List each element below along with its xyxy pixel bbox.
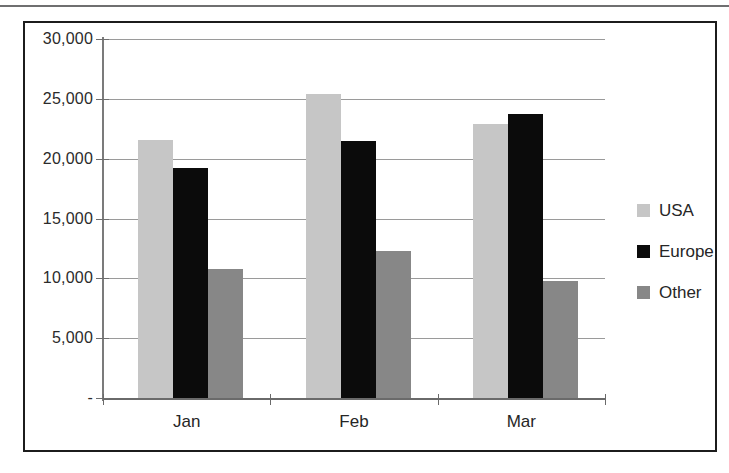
x-axis-tick-label-jan: Jan <box>173 412 200 432</box>
bar-other-mar[interactable] <box>543 281 578 398</box>
chart-frame: -5,00010,00015,00020,00025,00030,000 USA… <box>23 21 717 452</box>
legend-swatch-icon <box>637 286 650 299</box>
page-top-rule <box>0 5 729 7</box>
y-axis-tick-label: 30,000 <box>19 30 93 48</box>
x-axis-tick <box>270 394 271 405</box>
bar-group <box>306 39 411 398</box>
legend-label: Europe <box>659 242 714 262</box>
bar-europe-mar[interactable] <box>508 114 543 398</box>
y-axis-tick-label: 25,000 <box>19 90 93 108</box>
x-axis-tick <box>438 394 439 405</box>
y-axis-tick <box>96 159 109 160</box>
bar-usa-jan[interactable] <box>138 140 173 398</box>
y-axis-tick-label: 15,000 <box>19 210 93 228</box>
legend-item-other[interactable]: Other <box>637 272 729 313</box>
legend-label: Other <box>659 283 702 303</box>
x-axis-tick-label-mar: Mar <box>507 412 536 432</box>
bar-group <box>138 39 243 398</box>
legend-swatch-icon <box>637 204 650 217</box>
bar-usa-mar[interactable] <box>473 124 508 398</box>
bar-europe-jan[interactable] <box>173 168 208 398</box>
bar-usa-feb[interactable] <box>306 94 341 398</box>
y-axis-tick-label: - <box>19 389 93 407</box>
y-axis-tick-labels: -5,00010,00015,00020,00025,00030,000 <box>25 39 93 398</box>
legend-item-usa[interactable]: USA <box>637 190 729 231</box>
legend-label: USA <box>659 201 694 221</box>
y-axis-tick <box>96 278 109 279</box>
bar-other-feb[interactable] <box>376 251 411 398</box>
y-axis-tick <box>96 39 109 40</box>
legend-item-europe[interactable]: Europe <box>637 231 729 272</box>
x-axis-tick <box>103 394 104 405</box>
y-axis-tick-label: 5,000 <box>19 329 93 347</box>
bar-group <box>473 39 578 398</box>
x-axis-tick-label-feb: Feb <box>339 412 368 432</box>
category-axis-line <box>103 398 606 400</box>
y-axis-tick <box>96 219 109 220</box>
bar-other-jan[interactable] <box>208 269 243 398</box>
x-axis-tick <box>605 394 606 405</box>
y-axis-tick-label: 20,000 <box>19 150 93 168</box>
bar-europe-feb[interactable] <box>341 141 376 398</box>
y-axis-tick <box>96 99 109 100</box>
legend-swatch-icon <box>637 245 650 258</box>
plot-area <box>103 39 605 398</box>
y-axis-tick-label: 10,000 <box>19 269 93 287</box>
y-axis-tick <box>96 338 109 339</box>
chart-legend: USAEuropeOther <box>637 190 729 313</box>
